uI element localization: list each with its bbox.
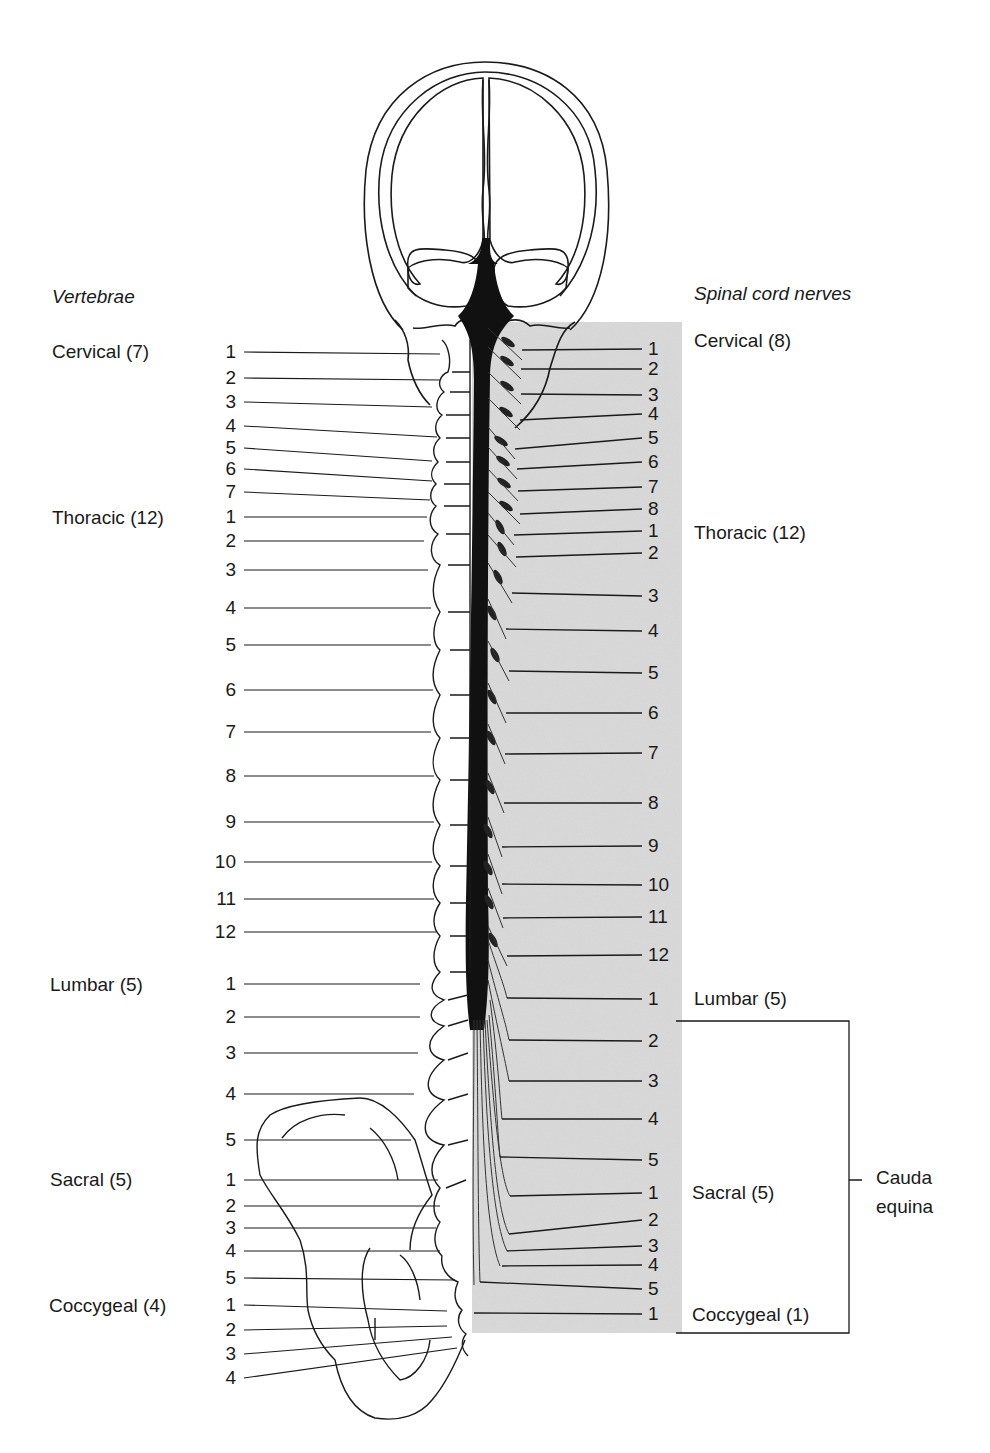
- vertebra-number: 4: [206, 598, 236, 617]
- nerve-group-sacral: Sacral (5): [692, 1183, 774, 1202]
- vertebra-number: 5: [206, 438, 236, 457]
- vertebra-number: 1: [206, 1295, 236, 1314]
- vertebra-number: 8: [206, 766, 236, 785]
- nerve-number: 7: [648, 743, 678, 762]
- vertebra-number: 7: [206, 722, 236, 741]
- vertebrae-header: Vertebrae: [52, 287, 135, 306]
- nerve-number: 4: [648, 1109, 678, 1128]
- nerve-number: 3: [648, 385, 678, 404]
- vertebra-number: 1: [206, 1170, 236, 1189]
- cauda-equina-bracket: [676, 1021, 862, 1333]
- vertebrae-group-cervical: Cervical (7): [52, 342, 149, 361]
- nerve-number: 6: [648, 703, 678, 722]
- vertebrae-group-thoracic: Thoracic (12): [52, 508, 164, 527]
- nerve-number: 5: [648, 428, 678, 447]
- nerve-number: 1: [648, 1183, 678, 1202]
- nerve-group-thoracic: Thoracic (12): [694, 523, 806, 542]
- vertebra-number: 4: [206, 416, 236, 435]
- vertebra-number: 5: [206, 1268, 236, 1287]
- nerve-number: 5: [648, 1150, 678, 1169]
- vertebra-number: 3: [206, 1218, 236, 1237]
- nerve-group-coccygeal: Coccygeal (1): [692, 1305, 809, 1324]
- vertebra-number: 2: [206, 1007, 236, 1026]
- vertebrae-group-coccygeal: Coccygeal (4): [49, 1296, 166, 1315]
- nerve-number: 4: [648, 621, 678, 640]
- nerve-number: 3: [648, 1236, 678, 1255]
- nerve-number: 2: [648, 543, 678, 562]
- cauda-equina-label-line2: equina: [876, 1197, 933, 1216]
- nerve-number: 8: [648, 793, 678, 812]
- nerve-number: 9: [648, 836, 678, 855]
- vertebra-number: 10: [206, 852, 236, 871]
- vertebra-number: 5: [206, 635, 236, 654]
- vertebra-number: 2: [206, 1320, 236, 1339]
- cauda-equina-label-line1: Cauda: [876, 1168, 932, 1187]
- vertebra-number: 2: [206, 368, 236, 387]
- nerve-number: 5: [648, 663, 678, 682]
- vertebra-number: 2: [206, 531, 236, 550]
- nerve-number: 1: [648, 989, 678, 1008]
- vertebra-number: 5: [206, 1130, 236, 1149]
- vertebra-number: 4: [206, 1368, 236, 1387]
- nerve-number: 2: [648, 359, 678, 378]
- nerve-group-cervical: Cervical (8): [694, 331, 791, 350]
- vertebra-number: 12: [206, 922, 236, 941]
- vertebra-number: 1: [206, 342, 236, 361]
- nerve-number: 10: [648, 875, 678, 894]
- vertebra-number: 4: [206, 1241, 236, 1260]
- nerve-number: 5: [648, 1279, 678, 1298]
- nerve-number: 2: [648, 1031, 678, 1050]
- nerve-group-lumbar: Lumbar (5): [694, 989, 787, 1008]
- vertebra-number: 3: [206, 1344, 236, 1363]
- vertebra-number: 3: [206, 1043, 236, 1062]
- vertebra-number: 3: [206, 392, 236, 411]
- nerve-number: 1: [648, 339, 678, 358]
- vertebra-number: 3: [206, 560, 236, 579]
- nerve-number: 1: [648, 521, 678, 540]
- vertebra-leader-lines: [244, 352, 457, 1378]
- vertebra-number: 6: [206, 459, 236, 478]
- nerve-number: 12: [648, 945, 678, 964]
- vertebra-number: 1: [206, 507, 236, 526]
- nerve-number: 4: [648, 404, 678, 423]
- nerve-number: 1: [648, 1304, 678, 1323]
- vertebra-number: 11: [206, 889, 236, 908]
- nerve-number: 7: [648, 477, 678, 496]
- vertebrae-group-lumbar: Lumbar (5): [50, 975, 143, 994]
- spinal-diagram: Vertebrae Spinal cord nerves Cervical (7…: [0, 0, 990, 1453]
- vertebra-number: 4: [206, 1084, 236, 1103]
- vertebra-number: 6: [206, 680, 236, 699]
- nerve-number: 6: [648, 452, 678, 471]
- nerve-number: 3: [648, 1071, 678, 1090]
- pelvis: [257, 1098, 465, 1419]
- nerve-number: 3: [648, 586, 678, 605]
- nerve-number: 11: [648, 907, 678, 926]
- nerves-header: Spinal cord nerves: [694, 284, 851, 303]
- nerve-number: 4: [648, 1255, 678, 1274]
- nerve-number: 8: [648, 499, 678, 518]
- vertebra-number: 1: [206, 974, 236, 993]
- vertebra-number: 2: [206, 1196, 236, 1215]
- nerve-number: 2: [648, 1210, 678, 1229]
- vertebra-number: 7: [206, 482, 236, 501]
- anatomy-illustration: [0, 0, 990, 1453]
- vertebrae-group-sacral: Sacral (5): [50, 1170, 132, 1189]
- vertebra-number: 9: [206, 812, 236, 831]
- vertebral-column: [425, 340, 470, 1356]
